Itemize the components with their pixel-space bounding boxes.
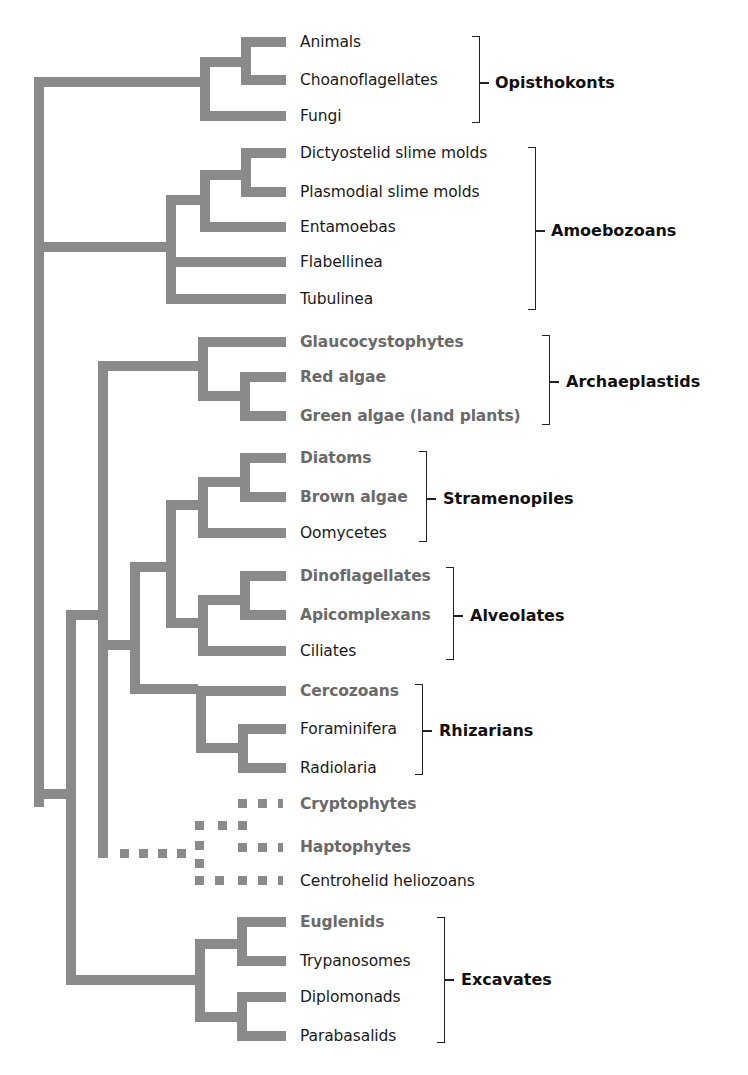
leaf-label-photosynthetic: Glaucocystophytes: [300, 332, 464, 352]
branch-to-excavates: [66, 975, 205, 985]
leaf-label: Plasmodial slime molds: [300, 182, 480, 202]
dotted-branch: [238, 821, 247, 830]
leaf-label-photosynthetic: Cercozoans: [300, 681, 399, 701]
leaf-label: Animals: [300, 32, 361, 52]
leaf-label: Radiolaria: [300, 758, 377, 778]
leaf-label-photosynthetic: Red algae: [300, 367, 386, 387]
group-label-stramenopiles: Stramenopiles: [443, 489, 574, 509]
dotted-branch: [195, 876, 204, 885]
dotted-branch: [177, 849, 186, 858]
bracket-tick: [550, 381, 559, 383]
leaf-label: Dictyostelid slime molds: [300, 143, 487, 163]
leaf-label-photosynthetic: Dinoflagellates: [300, 566, 431, 586]
leaf-branch-foraminifera: [238, 724, 286, 734]
bracket-excavates: [437, 917, 445, 1043]
leaf-branch-plasmodial: [241, 187, 286, 197]
leaf-label-photosynthetic: Brown algae: [300, 487, 408, 507]
leaf-label: Parabasalids: [300, 1026, 396, 1046]
bracket-opisthokonts: [472, 36, 480, 123]
leaf-branch-entamoebas: [200, 222, 286, 232]
group-label-archaeplastids: Archaeplastids: [566, 372, 700, 392]
node-amoebozoans: [166, 195, 176, 304]
leaf-branch-cercozoans: [196, 686, 286, 696]
leaf-branch-ciliates: [198, 646, 286, 656]
leaf-label: Tubulinea: [300, 289, 373, 309]
branch-root-opisthokonts: [34, 77, 210, 87]
leaf-label: Foraminifera: [300, 719, 397, 739]
dotted-branch: [120, 849, 129, 858]
dotted-branch-haptophytes: [238, 843, 247, 852]
bracket-archaeplastids: [542, 335, 550, 425]
group-label-alveolates: Alveolates: [470, 606, 564, 626]
dotted-branch-centrohelid: [215, 876, 224, 885]
leaf-branch-glaucocystophytes: [198, 337, 286, 347]
group-label-rhizarians: Rhizarians: [439, 721, 533, 741]
bracket-tick: [536, 230, 545, 232]
leaf-branch-radiolaria: [238, 763, 286, 773]
leaf-branch-tubulinea: [166, 294, 286, 304]
leaf-label: Diplomonads: [300, 987, 401, 1007]
dotted-branch-cryptophytes: [238, 799, 247, 808]
bracket-tick: [445, 979, 454, 981]
dotted-branch-centrohelid: [278, 876, 283, 885]
dotted-branch: [195, 821, 204, 830]
leaf-label: Flabellinea: [300, 252, 383, 272]
leaf-branch-trypanosomes: [237, 956, 286, 966]
dotted-branch: [139, 849, 148, 858]
leaf-branch-animals: [241, 37, 286, 47]
leaf-branch-fungi: [200, 111, 286, 121]
leaf-label: Oomycetes: [300, 523, 387, 543]
leaf-branch-euglenids: [237, 917, 286, 927]
bracket-amoebozoans: [528, 147, 536, 310]
dotted-branch-cryptophytes: [258, 799, 267, 808]
node-sa: [166, 500, 176, 628]
phylogenetic-tree: Animals Choanoflagellates Fungi Dictyost…: [0, 0, 748, 1075]
leaf-branch-diatoms: [240, 453, 286, 463]
dotted-branch-haptophytes: [258, 843, 267, 852]
leaf-label-photosynthetic: Haptophytes: [300, 837, 411, 857]
leaf-label-photosynthetic: Euglenids: [300, 912, 384, 932]
dotted-branch-haptophytes: [278, 843, 283, 852]
bracket-tick: [423, 730, 432, 732]
leaf-label: Choanoflagellates: [300, 70, 438, 90]
leaf-branch-dictyostelid: [241, 148, 286, 158]
group-label-excavates: Excavates: [461, 970, 552, 990]
leaf-label-photosynthetic: Cryptophytes: [300, 794, 416, 814]
leaf-label: Fungi: [300, 106, 341, 126]
dotted-branch-cryptophytes: [278, 799, 283, 808]
branch-root-amoebozoans: [34, 242, 176, 252]
leaf-branch-red-algae: [240, 372, 286, 382]
leaf-label-photosynthetic: Green algae (land plants): [300, 406, 521, 426]
leaf-branch-oomycetes: [198, 528, 286, 538]
leaf-label-photosynthetic: Apicomplexans: [300, 605, 431, 625]
group-label-amoebozoans: Amoebozoans: [551, 221, 676, 241]
leaf-label: Entamoebas: [300, 217, 396, 237]
dotted-branch: [195, 859, 204, 868]
bracket-alveolates: [446, 567, 454, 660]
leaf-label: Ciliates: [300, 641, 356, 661]
leaf-branch-choanoflagellates: [241, 75, 286, 85]
dotted-branch-centrohelid: [238, 876, 247, 885]
dotted-branch: [158, 849, 167, 858]
leaf-branch-parabasalids: [237, 1031, 286, 1041]
leaf-label-photosynthetic: Diatoms: [300, 448, 371, 468]
bracket-stramenopiles: [419, 451, 427, 542]
dotted-branch-centrohelid: [258, 876, 267, 885]
bracket-tick: [427, 498, 436, 500]
leaf-label: Trypanosomes: [300, 951, 410, 971]
leaf-branch-green-algae: [240, 411, 286, 421]
bracket-tick: [480, 82, 489, 84]
node-diaphoretickes: [98, 361, 108, 858]
branch-to-archaeplastids: [98, 361, 208, 371]
node-diaphoretickes-excavates: [66, 610, 76, 985]
leaf-label: Centrohelid heliozoans: [300, 871, 475, 891]
bracket-tick: [454, 615, 463, 617]
leaf-branch-dinoflagellates: [240, 571, 286, 581]
leaf-branch-diplomonads: [237, 992, 286, 1002]
branch-sar-to-rhizarians: [130, 684, 198, 694]
dotted-branch: [218, 821, 227, 830]
group-label-opisthokonts: Opisthokonts: [495, 73, 615, 93]
node-excavates: [195, 939, 205, 1022]
leaf-branch-brown-algae: [240, 492, 286, 502]
bracket-rhizarians: [415, 684, 423, 775]
